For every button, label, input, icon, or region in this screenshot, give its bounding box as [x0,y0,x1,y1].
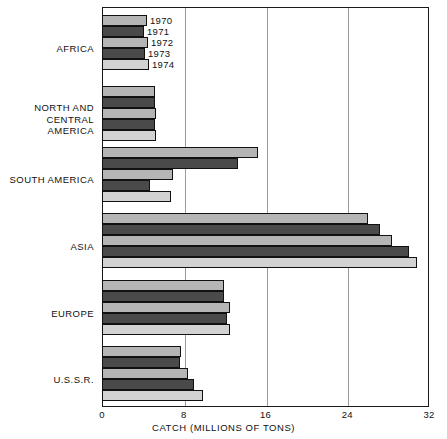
bar-asia-1971 [102,224,380,235]
region-label-africa: AFRICA [56,43,94,55]
bar-asia-1973 [102,246,409,257]
gridline-24 [348,8,349,406]
region-label-south-america: SOUTH AMERICA [10,174,95,186]
x-tick-0: 0 [99,409,105,420]
bar-ussr-1974 [102,390,203,401]
bar-africa-1971 [102,26,144,37]
bar-ussr-1972 [102,368,188,379]
legend-year-1973: 1973 [148,48,170,59]
bar-south-america-1974 [102,191,171,202]
bar-ussr-1971 [102,357,180,368]
region-label-europe: EUROPE [51,308,94,320]
bar-asia-1970 [102,213,368,224]
bar-africa-1972 [102,37,148,48]
x-tick-32: 32 [423,409,434,420]
bar-south-america-1971 [102,158,238,169]
bar-asia-1972 [102,235,392,246]
legend-year-1970: 1970 [150,15,172,26]
bar-ussr-1973 [102,379,194,390]
bar-europe-1974 [102,324,230,335]
x-tick-8: 8 [181,409,187,420]
bar-north-and-central-america-1974 [102,130,156,141]
bar-europe-1971 [102,291,224,302]
region-label-north-and-central-america: NORTH AND CENTRAL AMERICA [0,102,94,137]
legend-year-1971: 1971 [147,26,169,37]
fish-catch-bar-chart: AFRICA NORTH AND CENTRAL AMERICA SOUTH A… [0,0,447,439]
bar-africa-1970 [102,15,147,26]
gridline-16 [267,8,268,406]
x-tick-24: 24 [342,409,353,420]
legend-year-1972: 1972 [151,37,173,48]
bar-ussr-1970 [102,346,181,357]
bar-europe-1970 [102,280,224,291]
bar-south-america-1972 [102,169,173,180]
x-axis-title: CATCH (MILLIONS OF TONS) [0,422,447,433]
region-label-ussr: U.S.S.R. [53,374,94,386]
bar-europe-1972 [102,302,230,313]
bar-north-and-central-america-1973 [102,119,155,130]
bar-south-america-1973 [102,180,150,191]
bar-africa-1974 [102,59,149,70]
bar-north-and-central-america-1971 [102,97,155,108]
x-tick-16: 16 [260,409,271,420]
legend-year-1974: 1974 [152,59,174,70]
bar-europe-1973 [102,313,227,324]
bar-asia-1974 [102,257,417,268]
gridline-8 [185,8,186,406]
bar-north-and-central-america-1970 [102,86,155,97]
bar-north-and-central-america-1972 [102,108,156,119]
bar-south-america-1970 [102,147,258,158]
region-label-asia: ASIA [71,241,94,253]
bar-africa-1973 [102,48,145,59]
